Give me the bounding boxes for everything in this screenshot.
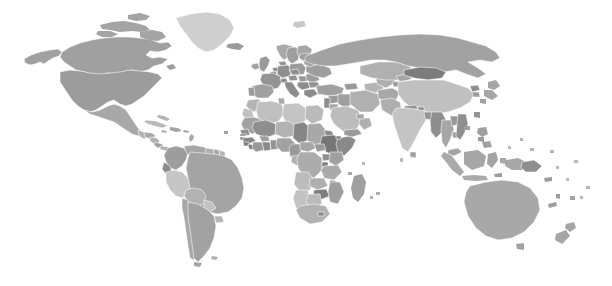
- island-pacific-tonga: [580, 196, 583, 199]
- country-lesotho[interactable]: [318, 212, 324, 216]
- country-uae-qatar[interactable]: [356, 114, 364, 119]
- country-tunisia[interactable]: [278, 98, 285, 104]
- country-uruguay[interactable]: [214, 216, 224, 223]
- country-gambia[interactable]: [240, 134, 246, 136]
- island-pacific-kiribati: [574, 160, 578, 163]
- country-tasmania: [516, 243, 524, 250]
- country-portugal[interactable]: [248, 87, 255, 96]
- country-sri-lanka[interactable]: [410, 152, 416, 158]
- island-pacific-marshall: [550, 150, 554, 153]
- country-indonesia-java: [462, 175, 488, 181]
- country-fiji: [570, 196, 575, 200]
- country-lebanon-israel[interactable]: [324, 98, 330, 108]
- country-cape-verde: [224, 131, 228, 134]
- island-seychelles: [362, 162, 365, 165]
- island-pacific-tuvalu: [566, 178, 569, 181]
- country-georgia-armenia-azerbaijan[interactable]: [344, 83, 358, 90]
- country-comoros: [348, 172, 352, 175]
- country-austria[interactable]: [288, 75, 298, 81]
- island-pacific-micronesia: [530, 148, 534, 151]
- country-djibouti[interactable]: [336, 136, 341, 139]
- country-hainan: [464, 126, 470, 130]
- island-pacific-palau: [508, 146, 511, 149]
- country-czechia[interactable]: [290, 69, 300, 75]
- island-pacific-nauru: [556, 166, 559, 169]
- country-indonesia-maluku: [500, 158, 506, 164]
- island-pacific-samoa: [586, 186, 590, 189]
- country-taiwan: [474, 112, 480, 118]
- world-choropleth-map[interactable]: [0, 0, 612, 286]
- world-map-figure: [0, 0, 612, 286]
- island-maldives: [400, 158, 403, 162]
- island-pacific-guam: [520, 138, 523, 141]
- island-reunion: [370, 196, 373, 199]
- country-south-korea[interactable]: [472, 92, 480, 97]
- country-mauritius: [376, 192, 380, 195]
